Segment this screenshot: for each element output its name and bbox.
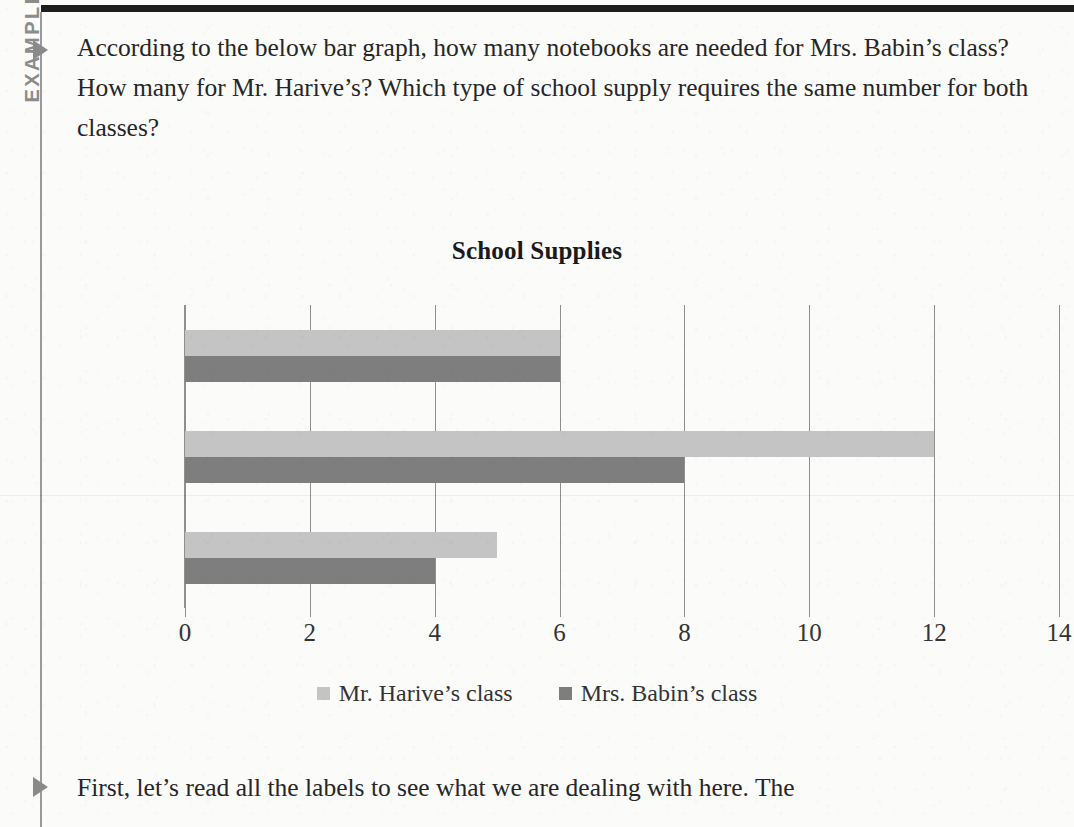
gridline — [1059, 305, 1060, 608]
x-axis-tick-label: 2 — [304, 619, 317, 647]
chart-legend: Mr. Harive’s classMrs. Babin’s class — [0, 680, 1074, 707]
legend-swatch-icon — [317, 687, 330, 700]
bar-harive-pencils — [185, 431, 934, 457]
x-axis-tick — [185, 608, 186, 617]
gridline — [934, 305, 935, 608]
top-rule — [41, 5, 1074, 12]
bar-harive-notebooks — [185, 532, 497, 558]
gridline — [684, 305, 685, 608]
plot-area: 02468101214FoldersPencilsNotebooks — [185, 305, 1059, 608]
x-axis-tick — [560, 608, 561, 617]
x-axis-tick — [1059, 608, 1060, 617]
x-axis-tick — [310, 608, 311, 617]
x-axis-tick-label: 10 — [797, 619, 822, 647]
bar-harive-folders — [185, 330, 560, 356]
intro-paragraph: According to the below bar graph, how ma… — [77, 28, 1052, 148]
x-axis-tick — [435, 608, 436, 617]
bullet-triangle-icon — [33, 777, 48, 797]
bar-babin-pencils — [185, 457, 684, 483]
x-axis-tick — [809, 608, 810, 617]
worksheet-page: EXAMPLE According to the below bar graph… — [0, 0, 1074, 827]
legend-swatch-icon — [559, 687, 572, 700]
bar-babin-folders — [185, 356, 560, 382]
x-axis-tick — [934, 608, 935, 617]
x-axis-tick-label: 0 — [179, 619, 192, 647]
legend-label: Mrs. Babin’s class — [581, 680, 758, 707]
gridline — [809, 305, 810, 608]
x-axis-tick-label: 4 — [428, 619, 441, 647]
chart-title: School Supplies — [0, 237, 1074, 265]
bar-babin-notebooks — [185, 558, 435, 584]
x-axis-tick-label: 8 — [678, 619, 691, 647]
x-axis-tick — [684, 608, 685, 617]
legend-item: Mrs. Babin’s class — [559, 680, 758, 707]
legend-item: Mr. Harive’s class — [317, 680, 513, 707]
bullet-triangle-icon — [33, 40, 48, 60]
bar-chart: School Supplies 02468101214FoldersPencil… — [0, 225, 1074, 735]
scan-artifact-line — [0, 495, 1074, 496]
after-paragraph: First, let’s read all the labels to see … — [77, 768, 1052, 808]
x-axis-tick-label: 14 — [1047, 619, 1072, 647]
x-axis-tick-label: 6 — [553, 619, 566, 647]
x-axis-tick-label: 12 — [922, 619, 947, 647]
legend-label: Mr. Harive’s class — [339, 680, 513, 707]
